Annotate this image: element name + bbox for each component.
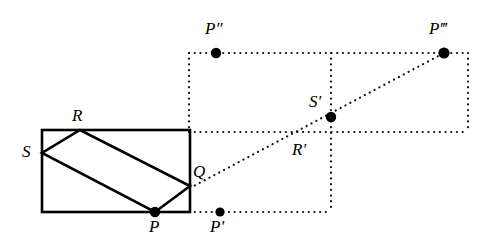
- point-P-dot: [150, 207, 160, 217]
- diagram-canvas: [0, 0, 500, 251]
- diagonal-ray-dotted: [190, 53, 444, 188]
- label-P-prime: P': [210, 218, 224, 235]
- label-P-triple-prime: P‴: [429, 20, 447, 37]
- label-R-prime: R′: [292, 141, 306, 158]
- label-S: S: [22, 143, 31, 160]
- dotted-construction-lines: [189, 53, 468, 212]
- inscribed-parallelogram: [42, 130, 190, 212]
- label-P: P: [149, 218, 159, 235]
- label-S-prime: S′: [309, 93, 321, 110]
- point-P-triple-prime-dot: [438, 47, 449, 58]
- geometry-diagram: R S Q P P' P″ P‴ S′ R′: [0, 0, 500, 251]
- label-P-double-prime: P″: [205, 20, 222, 37]
- label-Q: Q: [193, 163, 205, 180]
- label-R: R: [72, 107, 82, 124]
- bounding-rectangle: [42, 130, 190, 212]
- point-S-prime-dot: [326, 112, 336, 122]
- point-P-double-prime-dot: [211, 48, 221, 58]
- point-P-prime-dot: [215, 207, 224, 216]
